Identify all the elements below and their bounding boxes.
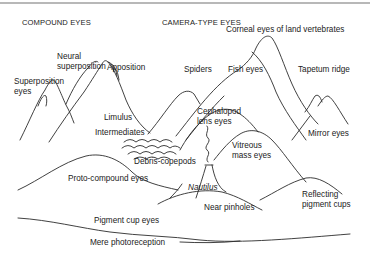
- label-vitreous-2: mass eyes: [232, 151, 271, 161]
- label-limulus: Limulus: [104, 113, 132, 123]
- label-superposition-1: Superposition: [14, 77, 64, 87]
- nautilus-smoke: [206, 126, 209, 162]
- label-intermediates: Intermediates: [95, 128, 145, 138]
- label-mere-photoreception: Mere photoreception: [90, 238, 165, 248]
- label-debris-copepods: Debris-copepods: [134, 157, 196, 167]
- label-spiders: Spiders: [184, 65, 212, 75]
- label-proto-compound: Proto-compound eyes: [68, 174, 148, 184]
- label-nautilus: Nautilus: [188, 183, 218, 193]
- label-tapetum: Tapetum ridge: [298, 65, 350, 75]
- label-vitreous-1: Vitreous: [232, 141, 262, 151]
- label-reflecting-2: pigment cups: [302, 200, 351, 210]
- label-apposition: Apposition: [107, 63, 145, 73]
- label-fish-eyes: Fish eyes: [228, 65, 263, 75]
- pigment-cup-line: [18, 218, 350, 241]
- label-near-pinholes: Near pinholes: [204, 203, 255, 213]
- spiders-peak: [148, 91, 200, 134]
- label-pigment-cup: Pigment cup eyes: [94, 216, 159, 226]
- label-neural-1: Neural: [57, 52, 81, 62]
- nautilus-volcano: [196, 165, 226, 198]
- label-superposition-2: eyes: [14, 87, 31, 97]
- label-reflecting-1: Reflecting: [302, 190, 338, 200]
- label-corneal: Corneal eyes of land vertebrates: [226, 25, 344, 35]
- mirror-peaks: [305, 95, 348, 124]
- label-mirror-eyes: Mirror eyes: [308, 129, 349, 139]
- label-cephalopod-1: Cephalopod: [197, 107, 241, 117]
- compound-eyes-header: COMPOUND EYES: [22, 18, 91, 27]
- label-cephalopod-2: lens eyes: [197, 117, 232, 127]
- label-neural-2: superposition: [57, 62, 106, 72]
